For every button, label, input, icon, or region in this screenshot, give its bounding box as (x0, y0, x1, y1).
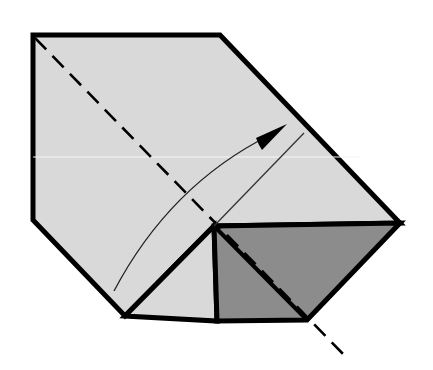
fold-illustration (0, 0, 433, 370)
origami-diagram: Origami fold step (0, 0, 433, 370)
dark-flap (214, 223, 400, 321)
